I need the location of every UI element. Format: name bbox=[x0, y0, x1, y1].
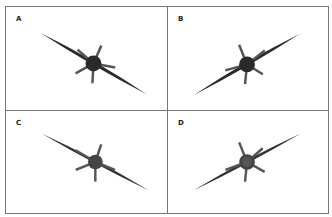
aircraft-icon bbox=[6, 7, 167, 110]
panel-d: D bbox=[167, 110, 328, 213]
figure-grid: A B bbox=[5, 6, 329, 214]
panel-c: C bbox=[6, 110, 167, 213]
aircraft-icon bbox=[6, 111, 167, 213]
aircraft-icon bbox=[168, 111, 328, 213]
panel-a: A bbox=[6, 7, 167, 110]
aircraft-icon bbox=[168, 7, 328, 110]
panel-b: B bbox=[167, 7, 328, 110]
